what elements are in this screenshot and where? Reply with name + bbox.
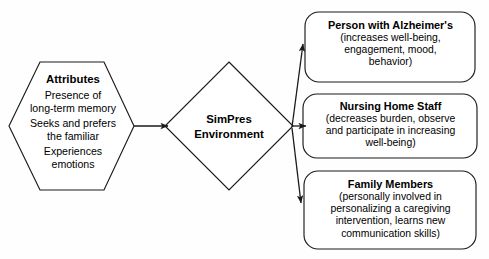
environment-diamond-shape (165, 62, 293, 190)
arrow-environment-to-person (292, 44, 303, 127)
person-box-shape (305, 12, 475, 82)
diagram-shapes-layer (0, 0, 489, 259)
family-box-shape (304, 171, 476, 249)
staff-box-shape (303, 94, 477, 158)
arrow-environment-to-family (292, 128, 301, 203)
diagram-canvas: Attributes Presence of long-term memory … (0, 0, 489, 259)
attributes-hexagon-shape (9, 62, 134, 190)
